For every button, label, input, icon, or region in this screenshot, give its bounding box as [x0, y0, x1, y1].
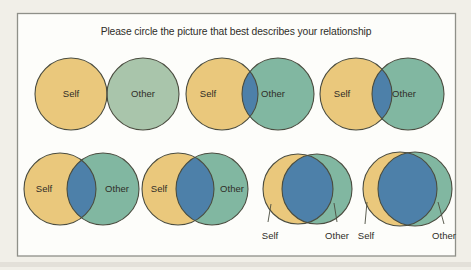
option-3[interactable]: Self Other — [320, 58, 444, 130]
self-label: Self — [334, 88, 351, 99]
self-label: Self — [63, 88, 80, 99]
option-4[interactable]: Self Other — [24, 153, 139, 225]
other-label: Other — [131, 88, 155, 99]
other-label: Other — [261, 88, 285, 99]
self-label: Self — [36, 183, 53, 194]
self-label: Self — [200, 88, 217, 99]
other-label: Other — [325, 230, 349, 241]
other-label: Other — [220, 183, 244, 194]
instruction-text: Please circle the picture that best desc… — [101, 26, 372, 37]
self-label: Self — [262, 230, 279, 241]
other-label: Other — [105, 183, 129, 194]
self-label: Self — [358, 230, 375, 241]
other-label: Other — [392, 88, 416, 99]
page-shadow — [0, 262, 471, 267]
ios-scale-figure: Please circle the picture that best desc… — [0, 0, 471, 270]
self-label: Self — [151, 183, 168, 194]
other-label: Other — [432, 230, 456, 241]
option-5[interactable]: Self Other — [142, 153, 248, 225]
